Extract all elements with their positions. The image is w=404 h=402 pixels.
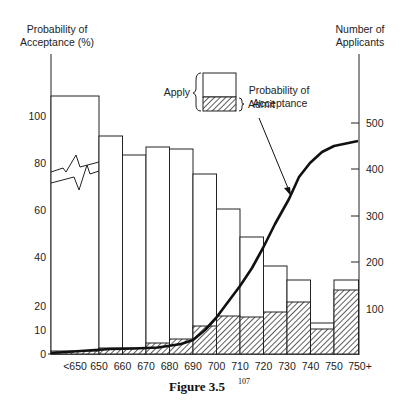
svg-text:10: 10 bbox=[34, 324, 46, 336]
svg-text:680: 680 bbox=[161, 360, 179, 372]
left-axis-title-line1: Probability of bbox=[27, 23, 88, 35]
svg-text:40: 40 bbox=[34, 251, 46, 263]
legend-apply-label: Apply bbox=[164, 86, 191, 98]
apply-bars bbox=[51, 96, 359, 354]
annotation-arrow-icon bbox=[259, 118, 290, 193]
bar-apply-660 bbox=[123, 155, 147, 354]
svg-text:100: 100 bbox=[28, 110, 46, 122]
right-axis-title-line2: Applicants bbox=[336, 36, 384, 48]
annotation-line1: Probability of bbox=[249, 84, 310, 96]
svg-text:730: 730 bbox=[278, 360, 296, 372]
svg-text:710: 710 bbox=[231, 360, 249, 372]
svg-text:650: 650 bbox=[90, 360, 108, 372]
chart-canvas: Probability of Acceptance (%) Number of … bbox=[0, 0, 404, 402]
legend-admit-label: Admit bbox=[248, 98, 275, 110]
bar-apply-650 bbox=[99, 136, 123, 354]
svg-text:660: 660 bbox=[114, 360, 132, 372]
left-axis-title-line2: Acceptance (%) bbox=[20, 36, 94, 48]
svg-text:750+: 750+ bbox=[348, 360, 372, 372]
bar-apply-lt650 bbox=[51, 96, 99, 354]
svg-text:80: 80 bbox=[34, 157, 46, 169]
svg-text:740: 740 bbox=[302, 360, 320, 372]
svg-text:20: 20 bbox=[34, 300, 46, 312]
svg-text:<650: <650 bbox=[63, 360, 87, 372]
bar-apply-680 bbox=[170, 149, 194, 354]
svg-text:720: 720 bbox=[255, 360, 273, 372]
x-axis-labels: <650 650 660 670 680 690 700 710 720 730… bbox=[63, 360, 372, 372]
right-axis-title-line1: Number of bbox=[335, 23, 384, 35]
svg-text:0: 0 bbox=[40, 348, 46, 360]
svg-text:300: 300 bbox=[366, 210, 384, 222]
figure-caption: Figure 3.5 bbox=[169, 379, 226, 394]
svg-text:100: 100 bbox=[366, 303, 384, 315]
figure-caption-superscript: 107 bbox=[238, 377, 250, 386]
svg-text:670: 670 bbox=[137, 360, 155, 372]
svg-text:750: 750 bbox=[325, 360, 343, 372]
bar-apply-670 bbox=[146, 147, 170, 354]
svg-text:60: 60 bbox=[34, 204, 46, 216]
svg-text:200: 200 bbox=[366, 256, 384, 268]
svg-text:500: 500 bbox=[366, 117, 384, 129]
svg-text:400: 400 bbox=[366, 163, 384, 175]
svg-text:700: 700 bbox=[208, 360, 226, 372]
svg-text:690: 690 bbox=[184, 360, 202, 372]
